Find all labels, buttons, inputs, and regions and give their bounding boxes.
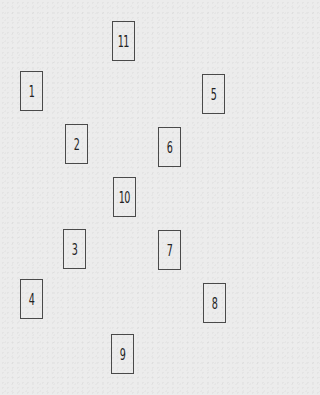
card-position-9: 9 <box>111 334 134 374</box>
card-position-2: 2 <box>65 124 88 164</box>
card-position-3: 3 <box>63 229 86 269</box>
card-number: 1 <box>29 82 35 101</box>
card-number: 6 <box>167 138 173 157</box>
card-position-11: 11 <box>112 21 135 61</box>
card-position-6: 6 <box>158 127 181 167</box>
card-number: 7 <box>167 241 173 260</box>
card-position-1: 1 <box>20 71 43 111</box>
card-number: 10 <box>119 188 130 207</box>
card-number: 2 <box>74 135 80 154</box>
card-position-7: 7 <box>158 230 181 270</box>
card-position-10: 10 <box>113 177 136 217</box>
card-number: 8 <box>212 294 218 313</box>
card-position-4: 4 <box>20 279 43 319</box>
card-position-8: 8 <box>203 283 226 323</box>
card-number: 5 <box>211 85 217 104</box>
card-position-5: 5 <box>202 74 225 114</box>
card-number: 11 <box>118 32 129 51</box>
card-number: 3 <box>72 240 78 259</box>
card-number: 4 <box>29 290 35 309</box>
card-number: 9 <box>120 345 126 364</box>
